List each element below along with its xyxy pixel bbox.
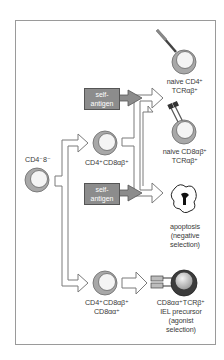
label-tp: CD4⁺CD8αβ⁺ CD8αα⁺ [80,298,134,316]
cell-dn [25,168,49,192]
label-dp: CD4⁺CD8αβ⁺ [80,158,134,167]
cell-tp [93,271,117,295]
arrow-tp-to-iel [122,272,147,294]
cell-dp [93,131,117,155]
self-antigen-line1: self- [85,185,119,194]
cell-apoptotic [171,185,196,213]
label-naive-cd4: naive CD4⁺ TCRαβ⁺ [160,77,210,95]
cell-naive-cd4 [157,30,196,74]
self-antigen-box-2: self- antigen [84,183,120,205]
arrow-to-naive-cd8 [143,106,153,186]
self-antigen-line2: antigen [85,99,119,108]
self-antigen-line1: self- [85,90,119,99]
cell-iel [151,270,197,296]
label-apoptosis: apoptosis (negative selection) [160,222,210,249]
cell-naive-cd8 [167,101,196,144]
label-dn: CD4⁻8⁻ [20,155,56,164]
self-antigen-box-1: self- antigen [84,88,120,110]
label-naive-cd8: naive CD8αβ⁺ TCRαβ⁺ [156,147,214,165]
self-antigen-line2: antigen [85,194,119,203]
label-iel: CD8αα⁺TCRβ⁺ IEL precursor (agonist selec… [148,298,214,334]
